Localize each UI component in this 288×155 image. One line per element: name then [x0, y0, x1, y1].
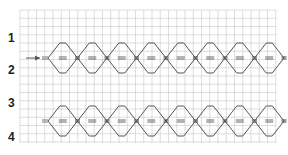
diamond-motif [137, 43, 167, 73]
diamond-motif [255, 106, 285, 136]
stitch-diagram: 1 2 3 4 [0, 0, 288, 155]
diamond-motif [225, 106, 255, 136]
row-label-3: 3 [8, 97, 15, 109]
diamond-motif [48, 106, 78, 136]
diamond-motif [255, 43, 285, 73]
diamond-motif [137, 106, 167, 136]
row-label-1: 1 [8, 32, 15, 44]
grid-chart [0, 0, 288, 155]
bottom-strip [42, 106, 287, 136]
row-label-2: 2 [8, 64, 15, 76]
diamond-motif [196, 43, 226, 73]
diamond-motif [225, 43, 255, 73]
diamond-motif [48, 43, 78, 73]
graph-paper-grid [20, 10, 276, 143]
diamond-motif [107, 43, 137, 73]
diamond-motif [166, 43, 196, 73]
diamond-motif [196, 106, 226, 136]
top-strip [26, 43, 287, 73]
diamond-strips [26, 43, 287, 136]
diamond-motif [107, 106, 137, 136]
row-label-4: 4 [8, 131, 15, 143]
diamond-motif [166, 106, 196, 136]
